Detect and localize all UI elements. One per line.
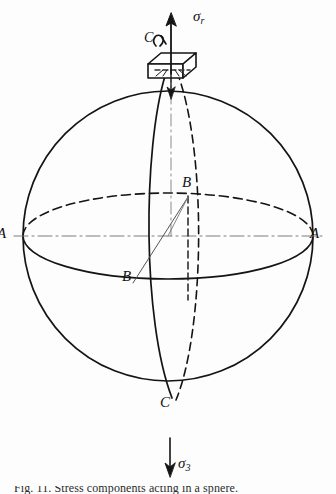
radius-to-b bbox=[133, 197, 188, 283]
figure-container: σr C B B A A C σ3 Fig. 11. Stress compon… bbox=[0, 0, 336, 494]
element-front-face bbox=[148, 64, 183, 78]
sigma-r-subscript: r bbox=[200, 15, 204, 26]
meridian-solid bbox=[149, 76, 172, 398]
point-label-a-right: A bbox=[310, 226, 319, 241]
point-label-c-bottom: C bbox=[160, 395, 170, 410]
figure-caption-clipped: Fig. 11. Stress components acting in a s… bbox=[0, 486, 336, 494]
point-label-b-upper: B bbox=[182, 175, 191, 190]
point-label-a-left: A bbox=[0, 226, 6, 241]
sphere-stress-diagram bbox=[0, 0, 336, 494]
sigma-3-label: σ3 bbox=[178, 456, 190, 473]
sigma-3-subscript: 3 bbox=[185, 462, 190, 473]
equator-front-solid bbox=[23, 236, 313, 279]
point-label-b-lower: B bbox=[122, 269, 131, 284]
equator-back-dashed bbox=[23, 193, 313, 236]
figure-caption-text: Fig. 11. Stress components acting in a s… bbox=[14, 486, 336, 494]
sigma-r-label: σr bbox=[193, 9, 204, 26]
point-label-c-top: C bbox=[144, 31, 153, 45]
